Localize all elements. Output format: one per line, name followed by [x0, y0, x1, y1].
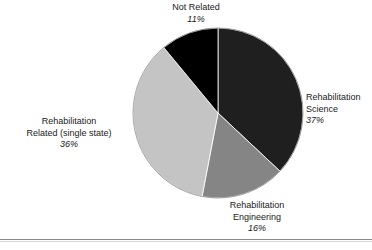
pie-chart-figure: Not Related 11% Rehabilitation Science 3…: [0, 0, 372, 250]
footer-divider: [0, 239, 372, 240]
slice-label-rehabilitation-engineering-percent: 16%: [205, 223, 309, 235]
slice-label-rehabilitation-engineering-name-line2: Engineering: [205, 212, 309, 224]
slice-label-rehabilitation-related-name-line1: Rehabilitation: [6, 116, 132, 128]
chart-plot-area: Not Related 11% Rehabilitation Science 3…: [0, 0, 372, 238]
slice-label-not-related-percent: 11%: [148, 14, 244, 26]
slice-label-rehabilitation-engineering: Rehabilitation Engineering 16%: [205, 200, 309, 235]
slice-label-rehabilitation-engineering-name-line1: Rehabilitation: [205, 200, 309, 212]
slice-label-rehabilitation-science-name-line2: Science: [306, 104, 372, 116]
slice-label-rehabilitation-science: Rehabilitation Science 37%: [306, 92, 372, 127]
slice-label-rehabilitation-related: Rehabilitation Related (single state) 36…: [6, 116, 132, 151]
slice-label-not-related: Not Related 11%: [148, 2, 244, 25]
pie-slice-group: [133, 28, 303, 198]
slice-label-not-related-name: Not Related: [148, 2, 244, 14]
slice-label-rehabilitation-science-name-line1: Rehabilitation: [306, 92, 372, 104]
slice-label-rehabilitation-related-percent: 36%: [6, 139, 132, 151]
slice-label-rehabilitation-related-name-line2: Related (single state): [6, 128, 132, 140]
slice-label-rehabilitation-science-percent: 37%: [306, 115, 372, 127]
footer-divider-secondary: [0, 241, 372, 242]
